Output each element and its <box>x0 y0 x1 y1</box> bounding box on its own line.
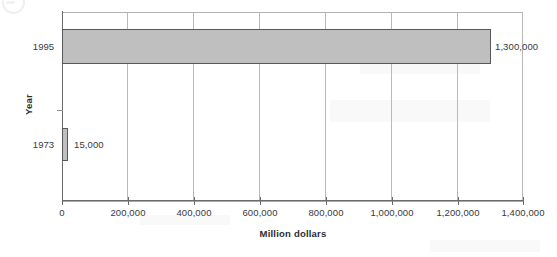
x-axis-title: Million dollars <box>62 228 524 239</box>
x-tick-600000 <box>260 197 261 205</box>
bar-1973 <box>62 128 68 161</box>
y-axis-title: Year <box>8 85 48 125</box>
x-axis-line-shadow <box>62 201 524 202</box>
y-axis-category-tick <box>57 110 63 111</box>
x-tick-label-1200000: 1,200,000 <box>436 207 479 218</box>
x-tick-label-1000000: 1,000,000 <box>370 207 413 218</box>
y-axis-title-text: Year <box>23 85 34 125</box>
bar-value-label-1973: 15,000 <box>74 139 104 150</box>
bar-chart: 1,300,000 15,000 1995 1973 0 200,000 400… <box>0 0 557 257</box>
x-tick-1000000 <box>392 197 393 205</box>
x-tick-label-400000: 400,000 <box>176 207 211 218</box>
x-tick-200000 <box>128 197 129 205</box>
x-tick-400000 <box>194 197 195 205</box>
bar-value-label-1995: 1,300,000 <box>495 41 538 52</box>
y-axis-category-label-1995: 1995 <box>0 41 54 52</box>
x-tick-0 <box>62 197 63 205</box>
x-tick-label-0: 0 <box>59 207 64 218</box>
x-tick-800000 <box>326 197 327 205</box>
x-tick-1200000 <box>458 197 459 205</box>
x-tick-label-600000: 600,000 <box>242 207 277 218</box>
x-tick-1400000 <box>523 197 524 205</box>
x-tick-label-200000: 200,000 <box>110 207 145 218</box>
x-tick-label-1400000: 1,400,000 <box>501 207 544 218</box>
x-tick-label-800000: 800,000 <box>308 207 343 218</box>
y-axis-category-label-1973: 1973 <box>0 139 54 150</box>
plot-top-border <box>62 12 523 13</box>
bar-1995 <box>62 29 491 64</box>
